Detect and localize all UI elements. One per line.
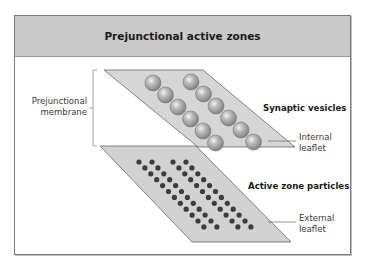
particle bbox=[184, 207, 189, 212]
vesicle bbox=[246, 134, 262, 150]
particle bbox=[218, 207, 223, 212]
vesicle bbox=[195, 123, 211, 139]
particle bbox=[149, 159, 154, 164]
active-zone-particles-label: Active zone particles bbox=[248, 181, 349, 192]
vesicle bbox=[208, 135, 224, 151]
particle bbox=[173, 183, 178, 188]
particle bbox=[194, 183, 199, 188]
particle bbox=[208, 218, 213, 223]
particle bbox=[219, 195, 224, 200]
label-line: leaflet bbox=[299, 224, 334, 235]
external-leaflet-plate bbox=[100, 146, 291, 242]
particle bbox=[200, 189, 205, 194]
label-line: leaflet bbox=[299, 143, 332, 154]
label-line: membrane bbox=[31, 107, 87, 118]
particle bbox=[195, 218, 200, 223]
label-line: Internal bbox=[299, 132, 332, 143]
particle bbox=[214, 224, 219, 229]
particle bbox=[189, 165, 194, 170]
particle bbox=[136, 159, 141, 164]
particle bbox=[225, 201, 230, 206]
particle bbox=[188, 177, 193, 182]
prejunctional-membrane-label: Prejunctional membrane bbox=[31, 96, 87, 117]
particle bbox=[142, 165, 147, 170]
particle bbox=[224, 213, 229, 218]
vesicle bbox=[233, 122, 249, 138]
particle bbox=[190, 213, 195, 218]
particle bbox=[242, 218, 247, 223]
particle bbox=[185, 195, 190, 200]
particle bbox=[170, 159, 175, 164]
membrane-bracket bbox=[89, 70, 97, 146]
particle bbox=[191, 201, 196, 206]
particle bbox=[212, 201, 217, 206]
particle bbox=[172, 195, 177, 200]
vesicle bbox=[196, 86, 212, 102]
particle bbox=[148, 171, 153, 176]
particle bbox=[182, 171, 187, 176]
vesicle bbox=[145, 75, 161, 91]
internal-leaflet-label: Internal leaflet bbox=[299, 132, 332, 153]
particle bbox=[197, 207, 202, 212]
vesicle bbox=[221, 110, 237, 126]
particle bbox=[235, 224, 240, 229]
particle bbox=[179, 189, 184, 194]
vesicle bbox=[183, 74, 199, 90]
particle bbox=[203, 213, 208, 218]
particle bbox=[167, 177, 172, 182]
vesicle bbox=[208, 98, 224, 114]
particle bbox=[213, 189, 218, 194]
synaptic-vesicles-label: Synaptic vesicles bbox=[263, 103, 346, 114]
particle bbox=[207, 183, 212, 188]
external-leaflet-label: External leaflet bbox=[299, 213, 334, 234]
particle bbox=[166, 189, 171, 194]
particle bbox=[160, 183, 165, 188]
particle bbox=[176, 165, 181, 170]
label-line: External bbox=[299, 213, 334, 224]
particle bbox=[195, 171, 200, 176]
particle bbox=[231, 207, 236, 212]
vesicle bbox=[170, 99, 186, 115]
particle bbox=[248, 224, 253, 229]
particle bbox=[161, 171, 166, 176]
vesicle bbox=[183, 111, 199, 127]
particle bbox=[154, 177, 159, 182]
particle bbox=[183, 159, 188, 164]
label-line: Prejunctional bbox=[31, 96, 87, 107]
particle bbox=[237, 213, 242, 218]
particle bbox=[155, 165, 160, 170]
particle bbox=[206, 195, 211, 200]
particle bbox=[229, 218, 234, 223]
vesicle bbox=[158, 87, 174, 103]
particle bbox=[201, 224, 206, 229]
particle bbox=[201, 177, 206, 182]
particle bbox=[178, 201, 183, 206]
